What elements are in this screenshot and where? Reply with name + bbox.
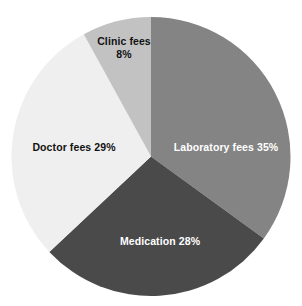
pie-slice-group [12, 17, 291, 296]
pie-chart-canvas [0, 0, 302, 306]
pie-chart: Laboratory fees 35% Medication 28% Docto… [0, 0, 302, 306]
